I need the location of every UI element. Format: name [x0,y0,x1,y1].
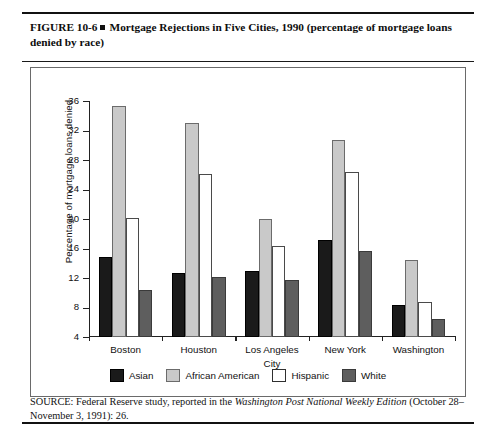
bar-los-angeles-african-american [259,219,272,337]
x-axis-title: City [89,358,455,369]
y-tick-label: 32 [68,124,79,135]
x-category-label-boston: Boston [89,344,162,355]
figure-container: FIGURE 10-6Mortgage Rejections in Five C… [22,12,474,424]
legend-item-african-american[interactable]: African American [166,369,259,382]
chart-panel: Percentage of mortgage loans denied 4812… [30,67,466,397]
y-tick-label: 12 [68,272,79,283]
bar-new-york-african-american [332,140,345,337]
y-tick-label: 24 [68,183,79,194]
legend-item-hispanic[interactable]: Hispanic [272,369,329,382]
bar-washington-hispanic [418,302,431,337]
bar-boston-hispanic [126,218,139,337]
bar-houston-african-american [185,123,198,337]
y-tick-label: 20 [68,213,79,224]
figure-number: FIGURE 10-6 [30,21,97,33]
x-tick [455,336,456,341]
legend-label: Hispanic [291,370,329,381]
bar-los-angeles-white [285,280,298,337]
bar-houston-hispanic [199,174,212,337]
x-category-label-washington: Washington [382,344,455,355]
bar-los-angeles-asian [245,271,258,337]
y-tick-label: 8 [74,301,79,312]
y-tick-label: 4 [74,331,79,342]
x-category-label-new-york: New York [309,344,382,355]
caption-divider [22,61,474,62]
legend-swatch-icon [166,369,180,382]
legend-item-asian[interactable]: Asian [110,369,154,382]
bar-los-angeles-hispanic [272,246,285,337]
bar-boston-asian [99,257,112,337]
source-prefix: SOURCE: Federal Reserve study, reported … [30,396,235,407]
bullet-square-icon [100,25,105,30]
y-tick-label: 16 [68,242,79,253]
bar-washington-asian [392,305,405,337]
x-category-label-los-angeles: Los Angeles [235,344,308,355]
bars-layer [89,101,455,337]
bar-boston-african-american [112,106,125,337]
figure-source: SOURCE: Federal Reserve study, reported … [30,395,466,422]
bar-new-york-asian [318,240,331,337]
legend-label: African American [185,370,259,381]
chart-legend: AsianAfrican AmericanHispanicWhite [30,369,466,382]
bar-new-york-white [359,251,372,337]
bar-houston-white [212,277,225,337]
y-tick-label: 28 [68,154,79,165]
legend-item-white[interactable]: White [342,369,386,382]
legend-label: Asian [129,370,154,381]
bar-houston-asian [172,273,185,337]
legend-swatch-icon [342,369,356,382]
bar-washington-african-american [405,260,418,337]
y-tick-label: 36 [68,95,79,106]
legend-swatch-icon [272,369,286,382]
source-publication: Washington Post National Weekly Edition [235,396,407,407]
legend-swatch-icon [110,369,124,382]
figure-caption: FIGURE 10-6Mortgage Rejections in Five C… [30,20,466,49]
x-category-label-houston: Houston [162,344,235,355]
bar-washington-white [432,319,445,337]
legend-label: White [361,370,386,381]
bar-boston-white [139,290,152,337]
bar-new-york-hispanic [345,172,358,337]
plot-area: Percentage of mortgage loans denied 4812… [31,68,467,398]
